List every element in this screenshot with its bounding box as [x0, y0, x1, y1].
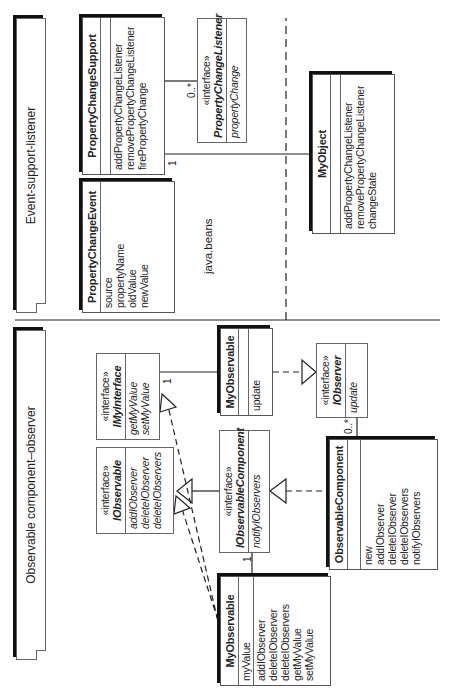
note-fold-corner	[36, 650, 46, 660]
class-name: MyObservable	[221, 329, 239, 415]
operation: changeState	[366, 79, 378, 229]
operations-compartment: addPropertyChangeListener removeProperty…	[341, 75, 379, 233]
interface-i-observable-component[interactable]: «interface» IObservableComponent notifyI…	[219, 430, 270, 553]
interface-name: IObserver	[331, 344, 346, 417]
operation: addPropertyChangeListener	[112, 22, 124, 170]
attributes-compartment: myValue	[239, 577, 254, 685]
operations-compartment: getMyValue setMyValue	[126, 354, 152, 439]
operations-compartment: addIObserver deleteIObserver deleteIObse…	[254, 577, 316, 685]
operation: deleteIObserver	[386, 444, 398, 565]
uml-diagram: Event-support-listener java.beans Proper…	[0, 0, 454, 696]
multiplicity-label: 0..*	[343, 419, 354, 434]
stereotype: «interface»	[97, 448, 111, 533]
operation: deleteIObserver	[267, 581, 279, 681]
attribute: propertyName	[114, 186, 126, 308]
package-label: java.beans	[202, 218, 214, 274]
operation: notifyIObservers	[410, 444, 422, 565]
attributes-compartment	[348, 440, 361, 569]
attributes-compartment: source propertyName oldValue newValue	[101, 182, 151, 312]
attributes-compartment	[239, 329, 249, 415]
operation: deleteIObservers	[279, 581, 291, 681]
operation: deleteIObservers	[151, 452, 163, 529]
operation: removePropertyChangeListener	[354, 79, 366, 229]
class-property-change-event[interactable]: PropertyChangeEvent source propertyName …	[82, 181, 175, 313]
operation: deleteIObservers	[398, 444, 410, 565]
operation: update	[347, 348, 359, 413]
operation: propertyChange	[228, 23, 240, 138]
note-title: Observable component–observer	[24, 406, 38, 583]
operation: removePropertyChangeListener	[124, 22, 136, 170]
operation: new	[362, 444, 374, 565]
operation: getMyValue	[127, 358, 139, 435]
attribute: oldValue	[126, 186, 138, 308]
operations-compartment: new addIObserver deleteIObserver deleteI…	[361, 440, 423, 569]
class-observable-component[interactable]: ObservableComponent new addIObserver del…	[329, 439, 438, 570]
class-my-observable-top[interactable]: MyObservable update	[220, 328, 273, 416]
operations-compartment: notifyIObservers	[249, 431, 263, 552]
operation: getMyValue	[291, 581, 303, 681]
class-name: MyObservable	[221, 577, 239, 685]
interface-name: PropertyChangeListener	[212, 19, 227, 142]
operation: addIObserver	[255, 581, 267, 681]
multiplicity-label: 1	[242, 556, 253, 562]
class-my-observable-bottom[interactable]: MyObservable myValue addIObserver delete…	[220, 576, 331, 686]
class-name: ObservableComponent	[330, 440, 348, 569]
note-title: Event-support-listener	[24, 107, 38, 224]
operation: deleteIObserver	[139, 452, 151, 529]
pattern-note-event-support-listener: Event-support-listener	[16, 18, 46, 313]
multiplicity-label: 1	[167, 160, 178, 166]
class-name: PropertyChangeEvent	[83, 182, 101, 312]
interface-property-change-listener[interactable]: «interface» PropertyChangeListener prope…	[197, 18, 247, 143]
operations-compartment: addPropertyChangeListener removeProperty…	[111, 18, 149, 174]
attributes-compartment	[101, 18, 111, 174]
interface-name: IMyInterface	[111, 354, 126, 439]
interface-name: IObservableComponent	[234, 431, 249, 552]
stereotype: «interface»	[198, 19, 212, 142]
operations-compartment: propertyChange	[227, 19, 241, 142]
pattern-note-observer: Observable component–observer	[16, 330, 46, 660]
stereotype: «interface»	[97, 354, 111, 439]
operations-compartment: update	[346, 344, 360, 417]
class-my-object[interactable]: MyObject addPropertyChangeListener remov…	[312, 74, 395, 234]
operation: addIObserver	[374, 444, 386, 565]
stereotype: «interface»	[317, 344, 331, 417]
operation: addIObserver	[127, 452, 139, 529]
attributes-compartment	[331, 75, 341, 233]
operation: firePropertyChange	[136, 22, 148, 170]
class-name: PropertyChangeSupport	[83, 18, 101, 174]
multiplicity-label: 1	[162, 378, 173, 384]
operation: setMyValue	[303, 581, 315, 681]
interface-i-observer[interactable]: «interface» IObserver update	[316, 343, 368, 418]
operation: update	[250, 333, 262, 411]
operations-compartment: addIObserver deleteIObserver deleteIObse…	[126, 448, 164, 533]
stereotype: «interface»	[220, 431, 234, 552]
note-fold-corner	[36, 303, 46, 313]
operations-compartment: update	[249, 329, 263, 415]
operation: setMyValue	[139, 358, 151, 435]
class-property-change-support[interactable]: PropertyChangeSupport addPropertyChangeL…	[82, 17, 165, 175]
operation: notifyIObservers	[250, 435, 262, 548]
interface-i-my-interface[interactable]: «interface» IMyInterface getMyValue setM…	[96, 353, 160, 440]
operation: addPropertyChangeListener	[342, 79, 354, 229]
multiplicity-label: 0..*	[186, 83, 197, 98]
attribute: newValue	[138, 186, 150, 308]
interface-i-observable[interactable]: «interface» IObservable addIObserver del…	[96, 447, 174, 534]
attribute: source	[102, 186, 114, 308]
class-name: MyObject	[313, 75, 331, 233]
interface-name: IObservable	[111, 448, 126, 533]
attribute: myValue	[240, 581, 252, 681]
